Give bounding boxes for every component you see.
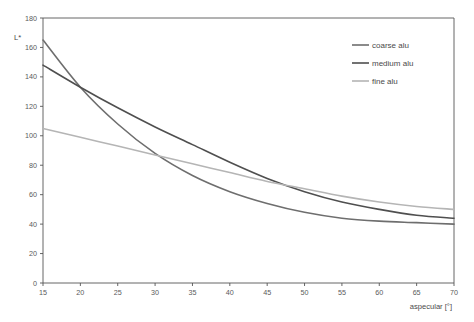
legend-label-coarse-alu: coarse alu bbox=[372, 41, 409, 50]
y-tick-label: 140 bbox=[25, 72, 37, 81]
x-tick-label: 70 bbox=[450, 288, 458, 297]
x-tick-label: 55 bbox=[338, 288, 346, 297]
y-tick-label: 40 bbox=[29, 220, 37, 229]
plot-frame bbox=[43, 18, 454, 283]
x-axis-title: aspecular [°] bbox=[410, 302, 452, 311]
x-tick-label: 20 bbox=[76, 288, 84, 297]
x-tick-label: 40 bbox=[226, 288, 234, 297]
y-tick-label: 120 bbox=[25, 102, 37, 111]
x-tick-label: 45 bbox=[263, 288, 271, 297]
y-tick-label: 20 bbox=[29, 249, 37, 258]
x-tick-label: 60 bbox=[375, 288, 383, 297]
line-chart: 0204060801001201401601801520253035404550… bbox=[0, 0, 474, 322]
x-tick-label: 50 bbox=[301, 288, 309, 297]
chart-container: 0204060801001201401601801520253035404550… bbox=[0, 0, 474, 322]
y-tick-label: 80 bbox=[29, 161, 37, 170]
y-axis-title: L* bbox=[14, 33, 21, 42]
legend-label-fine-alu: fine alu bbox=[372, 77, 398, 86]
y-tick-label: 160 bbox=[25, 43, 37, 52]
y-tick-label: 60 bbox=[29, 190, 37, 199]
x-tick-label: 30 bbox=[151, 288, 159, 297]
legend-label-medium-alu: medium alu bbox=[372, 59, 413, 68]
x-tick-label: 35 bbox=[188, 288, 196, 297]
x-tick-label: 25 bbox=[114, 288, 122, 297]
x-tick-label: 15 bbox=[39, 288, 47, 297]
y-tick-label: 0 bbox=[33, 279, 37, 288]
y-tick-label: 100 bbox=[25, 131, 37, 140]
x-tick-label: 65 bbox=[413, 288, 421, 297]
series-line-medium-alu bbox=[43, 65, 454, 218]
y-tick-label: 180 bbox=[25, 14, 37, 23]
